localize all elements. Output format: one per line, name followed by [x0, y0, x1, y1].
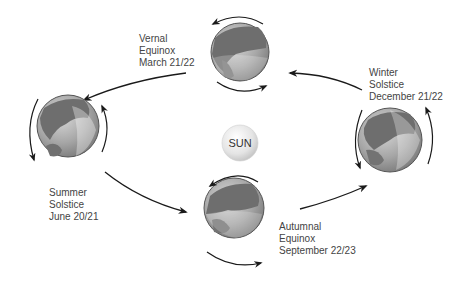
- globe-vernal: [211, 17, 269, 91]
- orbit-arrow-autumnal-to-winter: [300, 186, 366, 209]
- rotation-arrow-summer-right: [102, 106, 107, 152]
- sun-label: SUN: [220, 137, 260, 149]
- label-vernal-line1: Vernal: [139, 33, 195, 45]
- label-summer-line2: Solstice: [49, 199, 99, 211]
- label-autumnal-equinox: Autumnal Equinox September 22/23: [279, 221, 356, 257]
- label-winter-line3: December 21/22: [369, 91, 443, 103]
- label-vernal-line2: Equinox: [139, 45, 195, 57]
- earth-orbit-seasons-diagram: SUN Vernal Equinox March 21/22 Summer So…: [0, 0, 468, 281]
- globe-summer: [30, 95, 107, 160]
- label-winter-line2: Solstice: [369, 79, 443, 91]
- label-vernal-line3: March 21/22: [139, 57, 195, 69]
- rotation-arrow-vernal-bottom: [217, 82, 266, 91]
- label-vernal-equinox: Vernal Equinox March 21/22: [139, 33, 195, 69]
- rotation-arrow-winter-right: [426, 108, 433, 164]
- globe-winter: [355, 108, 432, 172]
- label-summer-line1: Summer: [49, 187, 99, 199]
- globe-autumnal: [204, 176, 264, 265]
- label-winter-line1: Winter: [369, 67, 443, 79]
- orbit-arrow-vernal-to-summer: [84, 73, 186, 100]
- label-winter-solstice: Winter Solstice December 21/22: [369, 67, 443, 103]
- label-summer-solstice: Summer Solstice June 20/21: [49, 187, 99, 223]
- orbit-arrow-winter-to-vernal: [290, 73, 362, 90]
- label-summer-line3: June 20/21: [49, 211, 99, 223]
- label-autumnal-line1: Autumnal: [279, 221, 356, 233]
- rotation-arrow-autumnal-bottom: [207, 252, 261, 265]
- label-autumnal-line2: Equinox: [279, 233, 356, 245]
- orbit-arrow-summer-to-autumnal: [105, 172, 186, 212]
- label-autumnal-line3: September 22/23: [279, 245, 356, 257]
